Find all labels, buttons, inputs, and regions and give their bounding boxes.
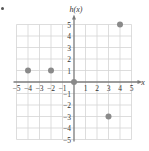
y-tick-label: 4 [67, 32, 71, 41]
x-tick-label: 5 [130, 84, 134, 93]
y-tick-label: 3 [67, 44, 71, 53]
data-point [117, 22, 123, 28]
x-tick-label: 2 [95, 84, 99, 93]
data-point [71, 79, 77, 85]
axes [14, 15, 143, 142]
x-tick-label: −5 [13, 84, 21, 93]
data-point [106, 114, 112, 120]
y-axis-label: h(x) [70, 5, 83, 14]
y-tick-label: −4 [63, 124, 71, 133]
x-tick-label: 4 [118, 84, 122, 93]
x-tick-label: −3 [36, 84, 44, 93]
x-tick-label: −2 [47, 84, 55, 93]
data-point [25, 68, 31, 74]
x-tick-label: 3 [107, 84, 111, 93]
x-tick-label: 1 [84, 84, 88, 93]
y-tick-label: 5 [67, 21, 71, 30]
x-tick-label: −4 [24, 84, 32, 93]
y-tick-label: −1 [63, 90, 71, 99]
data-point [48, 68, 54, 74]
y-tick-label: −3 [63, 113, 71, 122]
x-axis-label: x [140, 78, 145, 87]
scatter-chart: −5−4−3−2−11234554321−1−2−3−4−5 h(x) x [0, 0, 149, 151]
y-tick-label: −2 [63, 101, 71, 110]
y-tick-label: 1 [67, 67, 71, 76]
y-tick-label: 2 [67, 55, 71, 64]
y-tick-label: −5 [63, 136, 71, 145]
